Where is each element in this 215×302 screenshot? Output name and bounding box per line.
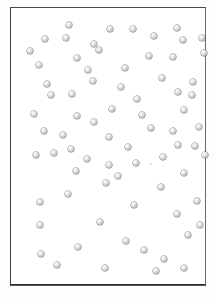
data-point [150,163,152,165]
data-point [33,152,39,158]
data-point [153,268,159,274]
data-point [31,111,37,117]
data-point [197,222,203,228]
data-point [115,173,121,179]
data-point [202,152,208,158]
data-point [174,25,180,31]
data-point [106,162,112,168]
data-point [174,211,180,217]
data-point [118,84,124,90]
data-point [130,26,136,32]
data-point [74,55,80,61]
data-point [37,222,43,228]
data-point [151,33,157,39]
data-point [131,202,137,208]
data-point [66,22,72,28]
data-point [37,199,43,205]
data-point [159,75,165,81]
data-point [161,256,167,262]
data-point [134,96,140,102]
data-point [192,143,198,149]
data-point [38,251,44,257]
data-point [125,144,131,150]
data-point [141,247,147,253]
data-point [158,184,164,190]
data-point [60,132,66,138]
data-point [194,198,200,204]
data-point [51,150,57,156]
data-point [175,89,181,95]
data-point [106,134,112,140]
data-point [91,41,97,47]
data-point [139,112,145,118]
data-point [181,265,187,271]
data-point [90,78,96,84]
data-point [189,92,195,98]
data-point [175,142,181,148]
data-point [109,106,115,112]
data-point [190,79,196,85]
data-point [41,128,47,134]
data-point [68,146,74,152]
data-point [160,154,166,160]
data-point [44,81,50,87]
data-point [84,156,90,162]
data-point [107,26,113,32]
data-point [27,48,33,54]
data-point [146,53,152,59]
data-point [96,47,102,53]
data-point [54,262,60,268]
data-point [170,128,176,134]
data-point [123,238,129,244]
data-point [181,170,187,176]
data-point [103,180,109,186]
data-point [75,244,81,250]
data-point [69,91,75,97]
data-point [85,67,91,73]
figure-root [0,0,215,302]
data-point [170,54,176,60]
data-point [180,37,186,43]
data-point [181,107,187,113]
data-point [42,36,48,42]
data-point [74,113,80,119]
data-point [36,62,42,68]
data-point [48,92,54,98]
data-point [185,232,191,238]
data-point [97,219,103,225]
data-point [201,50,207,56]
data-point [73,168,79,174]
scatter-plot-area [11,8,205,284]
data-point [63,35,69,41]
data-point [133,160,139,166]
data-point [122,65,128,71]
plot-frame [10,7,206,285]
data-point [65,191,71,197]
data-point [199,35,205,41]
data-point [102,265,108,271]
data-point [91,119,97,125]
data-point [148,125,154,131]
data-point [196,124,202,130]
